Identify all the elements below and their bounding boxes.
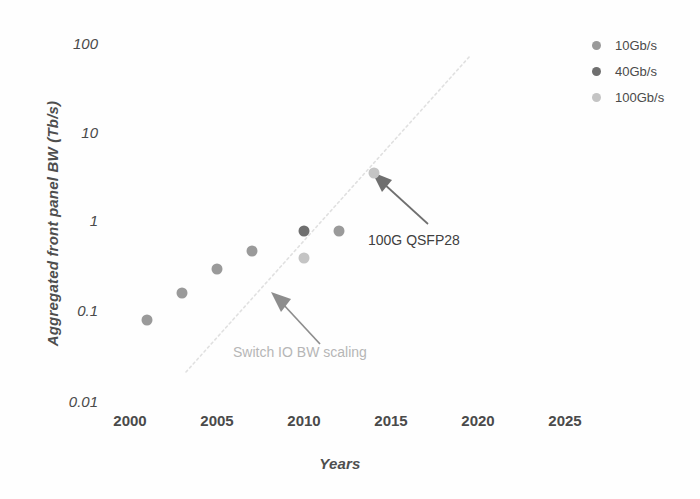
chart-legend: 10Gb/s 40Gb/s 100Gb/s	[592, 32, 696, 110]
y-tick-0-01: 0.01	[36, 393, 98, 410]
legend-item-40gbs: 40Gb/s	[592, 58, 696, 84]
x-tick-2005: 2005	[182, 412, 252, 429]
qsfp28-annotation-arrow	[372, 172, 428, 224]
legend-item-10gbs: 10Gb/s	[592, 32, 696, 58]
y-tick-0-1: 0.1	[36, 302, 98, 319]
legend-label-10gbs: 10Gb/s	[615, 38, 657, 53]
x-tick-2010: 2010	[269, 412, 339, 429]
y-tick-100: 100	[36, 35, 98, 52]
x-axis-title: Years	[250, 455, 430, 472]
x-tick-2020: 2020	[443, 412, 513, 429]
legend-label-100gbs: 100Gb/s	[615, 90, 664, 105]
y-tick-10: 10	[36, 124, 98, 141]
scatter-chart: Aggregated front panel BW (Tb/s) 100 10 …	[0, 0, 700, 499]
y-tick-1: 1	[36, 212, 98, 229]
legend-marker-40gbs	[592, 67, 601, 76]
y-axis-ticks: 100 10 1 0.1 0.01	[28, 0, 98, 499]
legend-marker-10gbs	[592, 41, 601, 50]
legend-marker-100gbs	[592, 93, 601, 102]
legend-item-100gbs: 100Gb/s	[592, 84, 696, 110]
switch-io-annotation-arrow	[271, 292, 320, 344]
annotation-switch-io-bw-scaling: Switch IO BW scaling	[233, 344, 367, 360]
x-tick-2000: 2000	[95, 412, 165, 429]
switch-io-trend-line	[186, 56, 470, 372]
legend-label-40gbs: 40Gb/s	[615, 64, 657, 79]
x-tick-2015: 2015	[356, 412, 426, 429]
x-tick-2025: 2025	[530, 412, 600, 429]
annotation-100g-qsfp28: 100G QSFP28	[368, 232, 460, 248]
